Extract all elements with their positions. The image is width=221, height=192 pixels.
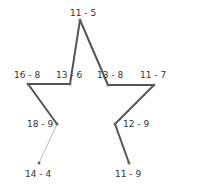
puzzle-dot[interactable] (69, 83, 72, 86)
dot-label: 11 - 9 (115, 169, 141, 179)
puzzle-dot[interactable] (107, 84, 110, 87)
puzzle-dot[interactable] (128, 162, 131, 165)
dot-label: 11 - 7 (140, 70, 166, 80)
dot-label: 18 - 9 (27, 119, 53, 129)
dot-label: 16 - 8 (14, 70, 40, 80)
line-segment (28, 84, 57, 124)
line-segment (39, 124, 57, 163)
dot-label: 13 - 8 (97, 70, 123, 80)
puzzle-dot[interactable] (79, 19, 82, 22)
dot-label: 12 - 9 (123, 119, 149, 129)
dot-label: 13 - 6 (56, 70, 82, 80)
puzzle-dot[interactable] (114, 123, 117, 126)
dot-label: 14 - 4 (25, 169, 51, 179)
connecting-lines (0, 0, 221, 192)
dot-label: 11 - 5 (70, 8, 96, 18)
line-segment (115, 124, 129, 163)
dot-puzzle-board[interactable]: 11 - 513 - 616 - 818 - 914 - 413 - 811 -… (0, 0, 221, 192)
puzzle-dot[interactable] (153, 84, 156, 87)
puzzle-dot[interactable] (56, 123, 59, 126)
puzzle-dot[interactable] (27, 83, 30, 86)
puzzle-dot[interactable] (38, 162, 41, 165)
